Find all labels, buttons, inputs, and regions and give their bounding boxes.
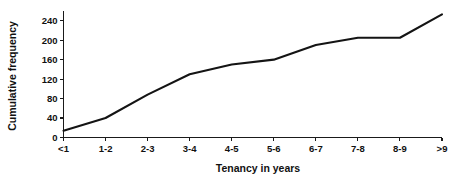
x-tick-label: 5-6 bbox=[267, 143, 281, 154]
cumulative-frequency-chart: 04080120160200240 <11-22-33-44-55-66-77-… bbox=[0, 0, 469, 179]
y-tick-label: 0 bbox=[52, 132, 57, 143]
x-axis-tick-labels: <11-22-33-44-55-66-77-88-9>9 bbox=[58, 143, 447, 154]
y-tick-label: 40 bbox=[47, 112, 58, 123]
x-tick-label: 3-4 bbox=[183, 143, 197, 154]
chart-canvas: 04080120160200240 <11-22-33-44-55-66-77-… bbox=[0, 0, 469, 179]
x-tick-label: 7-8 bbox=[351, 143, 365, 154]
x-tick-label: >9 bbox=[437, 143, 448, 154]
x-tick-label: 4-5 bbox=[225, 143, 239, 154]
y-tick-label: 120 bbox=[42, 74, 58, 85]
y-tick-label: 160 bbox=[42, 54, 58, 65]
x-tick-label: 6-7 bbox=[309, 143, 323, 154]
x-tick-label: <1 bbox=[58, 143, 70, 154]
x-tick-label: 8-9 bbox=[393, 143, 407, 154]
y-tick-label: 200 bbox=[42, 35, 58, 46]
y-axis-title: Cumulative frequency bbox=[6, 21, 18, 131]
y-tick-label: 240 bbox=[42, 15, 58, 26]
y-axis-tick-labels: 04080120160200240 bbox=[42, 15, 58, 143]
axes-group bbox=[64, 11, 443, 138]
x-tick-label: 1-2 bbox=[99, 143, 113, 154]
y-tick-label: 80 bbox=[47, 93, 58, 104]
x-tick-label: 2-3 bbox=[141, 143, 155, 154]
cumulative-frequency-line bbox=[64, 14, 443, 130]
x-axis-title: Tenancy in years bbox=[216, 162, 301, 174]
